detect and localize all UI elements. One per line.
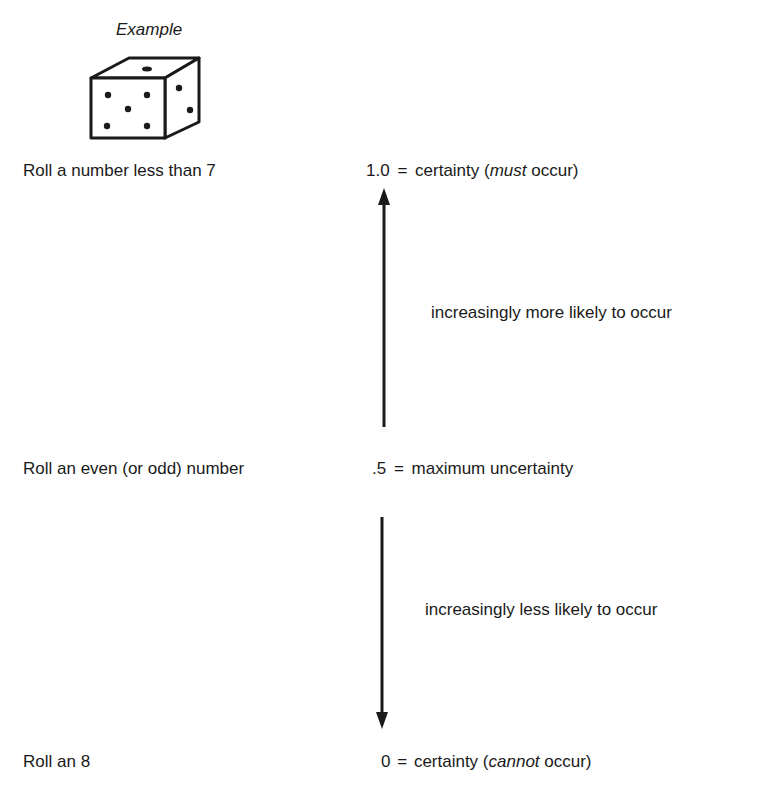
value-top: 1.0 <box>366 161 390 180</box>
equals-sign: = <box>394 459 404 478</box>
equals-sign: = <box>397 161 407 180</box>
event-middle: Roll an even (or odd) number <box>23 459 244 479</box>
value-middle: .5 <box>372 459 386 478</box>
scale-bottom-label: 0 = certainty (cannot occur) <box>381 752 592 772</box>
diagram-graphics <box>0 0 776 785</box>
value-bottom: 0 <box>381 752 390 771</box>
desc-bottom-em: cannot <box>489 752 540 771</box>
desc-top-post: occur) <box>527 161 579 180</box>
event-bottom: Roll an 8 <box>23 752 90 772</box>
desc-top-pre: certainty ( <box>415 161 490 180</box>
desc-bottom-pre: certainty ( <box>414 752 489 771</box>
arrow-up-label: increasingly more likely to occur <box>431 303 672 323</box>
scale-top-label: 1.0 = certainty (must occur) <box>366 161 579 181</box>
arrow-down-label: increasingly less likely to occur <box>425 600 657 620</box>
event-top: Roll a number less than 7 <box>23 161 216 181</box>
equals-sign: = <box>397 752 407 771</box>
arrow-down-icon <box>376 517 388 729</box>
desc-middle: maximum uncertainty <box>412 459 574 478</box>
desc-top-em: must <box>490 161 527 180</box>
desc-bottom-post: occur) <box>540 752 592 771</box>
scale-middle-label: .5 = maximum uncertainty <box>372 459 573 479</box>
arrow-up-icon <box>378 188 390 427</box>
